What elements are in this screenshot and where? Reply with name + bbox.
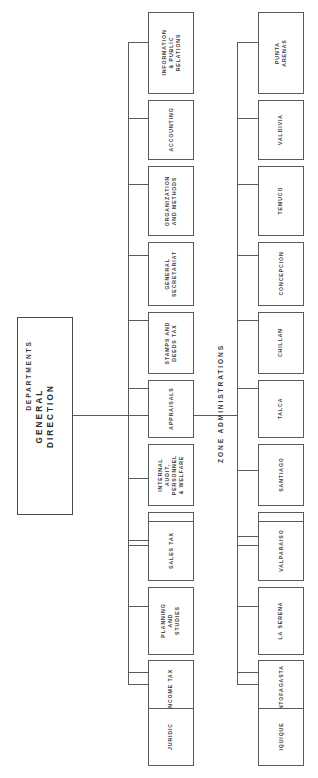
node-label: SALES TAX: [167, 533, 174, 570]
node-department[interactable]: ACCOUNTING: [148, 100, 194, 160]
stub-line: [128, 184, 148, 185]
stub-line: [237, 536, 258, 537]
node-label: TALCA: [277, 398, 284, 420]
stub-line: [237, 684, 258, 685]
node-label: STAMPS AND DEEDS TAX: [164, 322, 178, 365]
node-zone[interactable]: VALPARAISO: [258, 521, 304, 581]
stub-line: [237, 545, 258, 546]
node-zone[interactable]: CHILLAN: [258, 312, 304, 374]
stub-line: [237, 320, 258, 321]
node-department[interactable]: SALES TAX: [148, 521, 194, 581]
stub-line: [128, 672, 148, 673]
stub-line: [128, 540, 148, 541]
stub-line: [128, 42, 148, 43]
stub-line: [237, 42, 258, 43]
stub-line: [237, 118, 258, 119]
node-label: INTERNAL AUDIT, PERSONNEL & WELFARE: [157, 455, 185, 495]
stub-line: [128, 478, 148, 479]
node-label: VALPARAISO: [277, 530, 284, 572]
node-zone[interactable]: LA SERENA: [258, 587, 304, 655]
stub-line: [237, 184, 258, 185]
node-label: PLANNING AND STUDIES: [160, 599, 181, 643]
node-zone[interactable]: IQUIQUE: [258, 708, 304, 766]
node-department[interactable]: JURIDIC: [148, 708, 194, 766]
node-label: VALDIVIA: [277, 114, 284, 145]
node-department[interactable]: INFORMATION & PUBLIC RELATIONS: [148, 12, 194, 94]
node-label: PUNTA ARENAS: [274, 31, 288, 75]
node-label: INCOME TAX: [167, 669, 174, 710]
node-label: CHILLAN: [277, 328, 284, 357]
spine-departments: [128, 42, 129, 684]
node-label: JURIDIC: [167, 723, 174, 750]
node-label: CONCEPCION: [278, 252, 285, 296]
spine-zone-administrations: [237, 42, 238, 684]
stub-line: [237, 255, 258, 256]
node-label: ACCOUNTING: [168, 108, 175, 152]
node-department[interactable]: INTERNAL AUDIT, PERSONNEL & WELFARE: [148, 444, 194, 506]
node-label: ORGANIZATION AND METHODS: [164, 176, 178, 226]
stub-line: [237, 672, 258, 673]
node-label: SANTIAGO: [277, 458, 284, 493]
stub-line: [128, 255, 148, 256]
stub-line: [237, 470, 258, 471]
node-label: GENERAL SECRETARIAT: [164, 251, 178, 297]
node-zone[interactable]: VALDIVIA: [258, 100, 304, 160]
node-label: APPRAISALS: [167, 388, 174, 430]
stub-line: [128, 320, 148, 321]
stub-line: [128, 118, 148, 119]
node-label: TEMUCO: [277, 187, 284, 215]
node-zone[interactable]: CONCEPCION: [258, 242, 304, 306]
stub-line: [128, 684, 148, 685]
node-label: INFORMATION & PUBLIC RELATIONS: [160, 30, 181, 76]
stub-line: [128, 388, 148, 389]
node-department[interactable]: ORGANIZATION AND METHODS: [148, 166, 194, 236]
node-label: IQUIQUE: [277, 723, 284, 751]
group-caption-departments: DEPARTMENTS: [0, 372, 73, 379]
stub-line: [128, 606, 148, 607]
node-department[interactable]: PLANNING AND STUDIES: [148, 587, 194, 655]
node-department[interactable]: GENERAL SECRETARIAT: [148, 242, 194, 306]
org-chart: GENERAL DIRECTION DEPARTMENTS ZONE ADMIN…: [0, 0, 318, 778]
node-zone[interactable]: TALCA: [258, 380, 304, 438]
node-zone[interactable]: TEMUCO: [258, 166, 304, 236]
group-caption-zone-administrations-text: ZONE ADMINISTRATIONS: [216, 344, 223, 463]
node-zone[interactable]: SANTIAGO: [258, 444, 304, 506]
group-caption-departments-text: DEPARTMENTS: [24, 340, 31, 411]
stub-line: [128, 545, 148, 546]
node-label: GENERAL DIRECTION: [34, 384, 56, 448]
node-department[interactable]: STAMPS AND DEEDS TAX: [148, 312, 194, 374]
node-department[interactable]: APPRAISALS: [148, 380, 194, 438]
stub-line: [237, 606, 258, 607]
node-label: LA SERENA: [277, 602, 284, 640]
stub-line: [237, 388, 258, 389]
node-zone[interactable]: PUNTA ARENAS: [258, 12, 304, 94]
